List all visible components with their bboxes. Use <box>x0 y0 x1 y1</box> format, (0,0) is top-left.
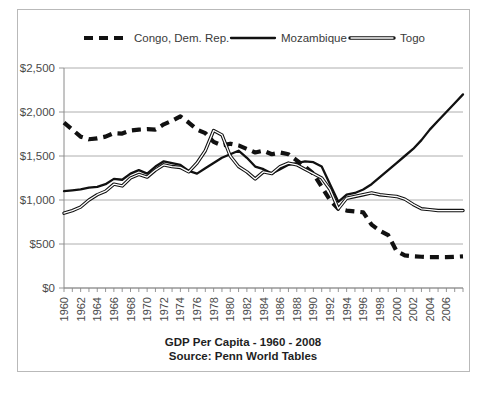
x-axis-tick-label: 1984 <box>258 297 270 321</box>
y-axis-tick-label: $500 <box>29 238 55 250</box>
x-axis-tick-label: 1966 <box>108 297 120 321</box>
chart-legend: Congo, Dem. Rep.MozambiqueTogo <box>84 32 425 44</box>
x-axis-tick-label: 1986 <box>274 297 286 321</box>
x-axis-tick-label: 1968 <box>125 297 137 321</box>
x-axis: 1960196219641966196819701972197419761978… <box>58 288 463 321</box>
legend-label: Togo <box>400 32 425 44</box>
y-axis-tick-label: $2,000 <box>20 106 55 118</box>
y-axis-tick-label: $1,000 <box>20 194 55 206</box>
series-line-congo-dem-rep <box>64 116 463 257</box>
x-axis-tick-label: 1988 <box>291 297 303 321</box>
legend-label: Mozambique <box>281 32 347 44</box>
y-axis: $0$500$1,000$1,500$2,000$2,500 <box>20 62 64 294</box>
x-axis-tick-label: 1994 <box>341 297 353 321</box>
gdp-per-capita-line-chart: Congo, Dem. Rep.MozambiqueTogo $0$500$1,… <box>18 10 469 371</box>
legend-item-congo-dem-rep[interactable]: Congo, Dem. Rep. <box>84 32 229 44</box>
x-axis-tick-label: 1992 <box>324 297 336 321</box>
chart-container: Congo, Dem. Rep.MozambiqueTogo $0$500$1,… <box>17 9 470 372</box>
x-axis-tick-label: 1960 <box>58 297 70 321</box>
x-axis-tick-label: 1982 <box>241 297 253 321</box>
x-axis-tick-label: 1998 <box>374 297 386 321</box>
legend-item-togo[interactable]: Togo <box>350 32 425 44</box>
x-axis-tick-label: 2002 <box>407 297 419 321</box>
x-axis-tick-label: 1964 <box>91 297 103 321</box>
series-line-togo-inner <box>64 130 463 213</box>
x-axis-tick-label: 2006 <box>440 297 452 321</box>
x-axis-tick-label: 1996 <box>357 297 369 321</box>
legend-item-mozambique[interactable]: Mozambique <box>231 32 347 44</box>
x-axis-tick-label: 1972 <box>158 297 170 321</box>
y-axis-tick-label: $2,500 <box>20 62 55 74</box>
y-axis-tick-label: $0 <box>42 282 55 294</box>
y-axis-tick-label: $1,500 <box>20 150 55 162</box>
legend-label: Congo, Dem. Rep. <box>134 32 229 44</box>
data-series <box>64 94 463 257</box>
x-axis-tick-label: 1970 <box>141 297 153 321</box>
x-axis-tick-label: 2004 <box>424 297 436 321</box>
x-axis-tick-label: 1974 <box>174 297 186 321</box>
x-axis-tick-label: 1978 <box>208 297 220 321</box>
x-axis-tick-label: 1976 <box>191 297 203 321</box>
chart-source-note: Source: Penn World Tables <box>169 350 317 362</box>
x-axis-tick-label: 2000 <box>391 297 403 321</box>
x-axis-tick-label: 1990 <box>307 297 319 321</box>
x-axis-tick-label: 1962 <box>75 297 87 321</box>
x-axis-tick-label: 1980 <box>224 297 236 321</box>
chart-title: GDP Per Capita - 1960 - 2008 <box>165 336 322 348</box>
